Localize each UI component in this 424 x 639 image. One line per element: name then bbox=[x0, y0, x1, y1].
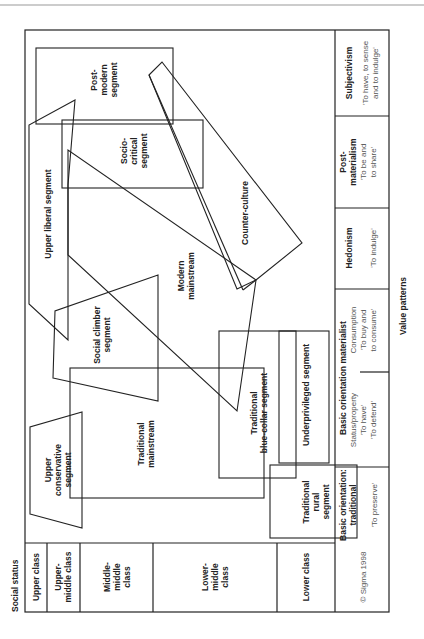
value-title: Post- bbox=[338, 151, 348, 172]
segment-label-line: Modern bbox=[176, 261, 186, 292]
class-label-line: Lower- bbox=[200, 563, 210, 591]
label-traditional-blue-collar: Traditional blue-collar segment bbox=[249, 373, 269, 453]
value-post-materialism: Post- materialism 'To be and to share' bbox=[338, 138, 378, 186]
segment-label-line: segment bbox=[321, 484, 331, 519]
value-motto: 'To defend' bbox=[369, 400, 378, 439]
axis-label-social-status: Social status bbox=[10, 559, 20, 612]
value-motto: 'To have' bbox=[359, 404, 368, 436]
segment-label-line: Underprivileged segment bbox=[301, 344, 311, 446]
counter-culture-edge bbox=[149, 75, 243, 290]
value-title: Subjectivism bbox=[344, 46, 354, 99]
segment-label-line: Counter-culture bbox=[240, 181, 250, 245]
segment-label-line: Social climber bbox=[92, 305, 102, 363]
value-materialist-status: Status/property 'To have' 'To defend' bbox=[349, 393, 378, 447]
segment-label-line: blue-collar segment bbox=[259, 373, 269, 453]
label-socio-critical: Socio- critical segment bbox=[119, 133, 149, 168]
value-materialist: Basic orientation materialist bbox=[338, 321, 348, 435]
value-traditional: Basic orientation: traditional 'To prese… bbox=[338, 469, 379, 541]
value-title: traditional bbox=[348, 484, 358, 525]
sinus-milieu-diagram: Social status Value patterns Upper class… bbox=[0, 0, 424, 639]
copyright: © Sigma 1998 bbox=[359, 551, 368, 602]
segment-label-line: Socio- bbox=[119, 138, 129, 164]
value-title: materialism bbox=[348, 138, 358, 186]
label-upper-liberal: Upper liberal segment bbox=[43, 169, 53, 258]
segment-label-line: mainstream bbox=[186, 252, 196, 300]
class-label-line: class bbox=[122, 566, 132, 588]
value-motto: Status/property bbox=[349, 393, 358, 447]
segment-label-line: Upper liberal segment bbox=[43, 169, 53, 258]
value-motto: to consume' bbox=[369, 308, 378, 351]
value-motto: 'To have, to sense bbox=[361, 40, 370, 105]
value-motto: Consumption bbox=[349, 306, 358, 353]
segment-label-line: modern bbox=[99, 64, 109, 95]
shape-modern-mainstream bbox=[68, 150, 256, 411]
segment-label-line: Upper bbox=[43, 457, 53, 482]
segment-label-line: segment bbox=[139, 133, 149, 168]
class-middle-middle: Middle- middle class bbox=[102, 562, 132, 592]
label-counter-culture: Counter-culture bbox=[240, 181, 250, 245]
segment-label-line: Post- bbox=[89, 69, 99, 90]
class-label-line: middle bbox=[112, 563, 122, 591]
value-subjectivism: Subjectivism 'To have, to sense and to i… bbox=[344, 40, 380, 105]
segment-label-line: Traditional bbox=[136, 423, 146, 466]
segment-label-line: segment bbox=[109, 62, 119, 97]
value-materialist-consumption: Consumption 'To buy and to consume' bbox=[349, 306, 378, 353]
segment-label-line: segment bbox=[102, 317, 112, 352]
shape-counter-culture bbox=[149, 62, 302, 289]
label-upper-conservative: Upper conservative segment bbox=[43, 444, 73, 496]
label-traditional-mainstream: Traditional mainstream bbox=[136, 420, 156, 468]
value-title: Basic orientation materialist bbox=[338, 321, 348, 435]
class-upper: Upper class bbox=[31, 553, 41, 601]
segment-label-line: critical bbox=[129, 137, 139, 164]
value-title: Basic orientation: bbox=[338, 469, 348, 541]
label-social-climber: Social climber segment bbox=[92, 305, 112, 363]
value-hedonism: Hedonism 'To indulge' bbox=[344, 227, 378, 269]
class-label-line: middle class bbox=[63, 551, 73, 602]
label-traditional-rural: Traditional rural segment bbox=[301, 481, 331, 524]
class-label-line: middle bbox=[210, 563, 220, 591]
class-label-line: class bbox=[220, 566, 230, 588]
segment-label-line: segment bbox=[63, 452, 73, 487]
axis-label-value-patterns: Value patterns bbox=[398, 277, 408, 335]
value-motto: 'To preserve' bbox=[370, 482, 379, 527]
label-underprivileged: Underprivileged segment bbox=[301, 344, 311, 446]
value-title: Hedonism bbox=[344, 227, 354, 269]
class-label-line: Middle- bbox=[102, 562, 112, 592]
class-upper-middle: Upper- middle class bbox=[53, 551, 73, 602]
value-motto: 'To indulge' bbox=[369, 228, 378, 268]
segment-label-line: Traditional bbox=[249, 392, 259, 435]
class-lower: Lower class bbox=[301, 552, 311, 601]
label-post-modern: Post- modern segment bbox=[89, 62, 119, 97]
value-motto: 'To buy and bbox=[359, 310, 368, 351]
segment-label-line: Traditional bbox=[301, 481, 311, 524]
class-lower-middle: Lower- middle class bbox=[200, 563, 230, 591]
value-motto: to share' bbox=[369, 146, 378, 177]
segment-label-line: conservative bbox=[53, 444, 63, 496]
value-motto: and to indulge' bbox=[371, 47, 380, 99]
value-motto: 'To be and bbox=[359, 144, 368, 181]
segment-label-line: mainstream bbox=[146, 420, 156, 468]
segment-label-line: rural bbox=[311, 493, 321, 512]
class-label-line: Upper- bbox=[53, 563, 63, 591]
label-modern-mainstream: Modern mainstream bbox=[176, 252, 196, 300]
